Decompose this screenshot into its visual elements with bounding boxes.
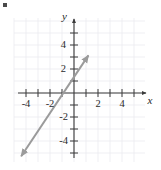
y-tick-label-pos4: 4 [61, 39, 67, 50]
x-tick-label-neg2: -2 [46, 98, 55, 109]
y-tick-label-pos2: 2 [61, 63, 66, 74]
x-tick-label-neg4: -4 [22, 98, 31, 109]
x-tick-label-pos2: 2 [95, 98, 100, 109]
y-axis-label: y [61, 10, 67, 22]
x-tick-label-pos4: 4 [119, 98, 125, 109]
y-tick-label-neg2: -2 [59, 111, 68, 122]
graph-figure: -4 -2 2 4 4 2 -2 -4 y x [0, 0, 161, 170]
coordinate-plane-plot: -4 -2 2 4 4 2 -2 -4 y x [0, 0, 161, 170]
y-tick-label-neg4: -4 [59, 135, 68, 146]
x-axis-label: x [147, 94, 153, 106]
grid-lines [14, 18, 145, 162]
